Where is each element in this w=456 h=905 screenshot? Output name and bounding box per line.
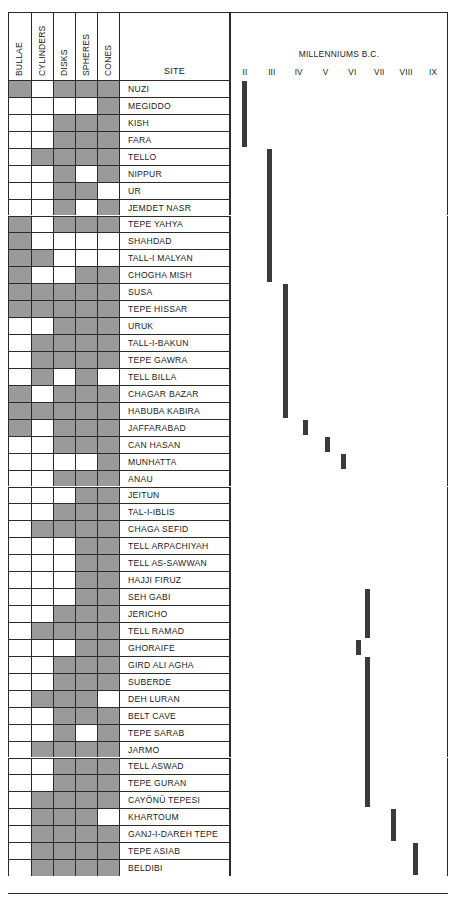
matrix-cell-cylinders[interactable]	[31, 639, 53, 656]
site-name-cell[interactable]: NIPPUR	[119, 165, 230, 182]
matrix-cell-cones[interactable]	[97, 741, 119, 758]
matrix-cell-spheres[interactable]	[75, 707, 97, 724]
site-name-cell[interactable]: SEH GABI	[119, 588, 230, 605]
matrix-cell-cones[interactable]	[97, 487, 119, 504]
matrix-cell-cones[interactable]	[97, 639, 119, 656]
site-name-cell[interactable]: ANAU	[119, 470, 230, 487]
matrix-cell-bullae[interactable]	[8, 232, 31, 249]
matrix-cell-bullae[interactable]	[8, 165, 31, 182]
matrix-cell-cylinders[interactable]	[31, 385, 53, 402]
table-row[interactable]: CHAGAR BAZAR	[8, 385, 448, 402]
matrix-cell-disks[interactable]	[53, 453, 75, 470]
table-row[interactable]: TEPE ASIAB	[8, 842, 448, 859]
site-name-cell[interactable]: GHORAIFE	[119, 639, 230, 656]
timeline-cell[interactable]	[230, 385, 448, 402]
matrix-cell-spheres[interactable]	[75, 825, 97, 842]
site-name-cell[interactable]: JAFFARABAD	[119, 419, 230, 436]
table-row[interactable]: JEMDET NASR	[8, 199, 448, 216]
site-name-cell[interactable]: CHAGAR BAZAR	[119, 385, 230, 402]
matrix-cell-disks[interactable]	[53, 791, 75, 808]
matrix-cell-cones[interactable]	[97, 842, 119, 859]
site-name-cell[interactable]: TEPE ASIAB	[119, 842, 230, 859]
table-row[interactable]: SEH GABI	[8, 588, 448, 605]
matrix-cell-cones[interactable]	[97, 385, 119, 402]
matrix-cell-cylinders[interactable]	[31, 808, 53, 825]
matrix-cell-cylinders[interactable]	[31, 216, 53, 233]
timeline-cell[interactable]	[230, 707, 448, 724]
matrix-cell-cylinders[interactable]	[31, 131, 53, 148]
table-row[interactable]: CAN HASAN	[8, 436, 448, 453]
matrix-cell-cylinders[interactable]	[31, 199, 53, 216]
timeline-cell[interactable]	[230, 724, 448, 741]
matrix-cell-cones[interactable]	[97, 80, 119, 97]
matrix-cell-spheres[interactable]	[75, 368, 97, 385]
table-row[interactable]: KISH	[8, 114, 448, 131]
matrix-cell-spheres[interactable]	[75, 656, 97, 673]
site-name-cell[interactable]: CAN HASAN	[119, 436, 230, 453]
table-row[interactable]: TEPE SARAB	[8, 724, 448, 741]
timeline-cell[interactable]	[230, 825, 448, 842]
matrix-cell-disks[interactable]	[53, 216, 75, 233]
matrix-cell-spheres[interactable]	[75, 216, 97, 233]
matrix-cell-cylinders[interactable]	[31, 80, 53, 97]
matrix-cell-bullae[interactable]	[8, 266, 31, 283]
matrix-cell-disks[interactable]	[53, 842, 75, 859]
site-name-cell[interactable]: SUSA	[119, 283, 230, 300]
matrix-cell-cones[interactable]	[97, 503, 119, 520]
timeline-cell[interactable]	[230, 808, 448, 825]
table-row[interactable]: CHAGA SEFID	[8, 520, 448, 537]
matrix-cell-cylinders[interactable]	[31, 554, 53, 571]
site-name-cell[interactable]: TELL RAMAD	[119, 622, 230, 639]
timeline-cell[interactable]	[230, 80, 448, 97]
matrix-cell-spheres[interactable]	[75, 436, 97, 453]
matrix-cell-spheres[interactable]	[75, 605, 97, 622]
matrix-cell-cones[interactable]	[97, 232, 119, 249]
matrix-cell-cones[interactable]	[97, 199, 119, 216]
site-name-cell[interactable]: TELLO	[119, 148, 230, 165]
table-row[interactable]: TELL AS-SAWWAN	[8, 554, 448, 571]
matrix-cell-spheres[interactable]	[75, 317, 97, 334]
site-name-cell[interactable]: TEPE SARAB	[119, 724, 230, 741]
site-name-cell[interactable]: TELL AS-SAWWAN	[119, 554, 230, 571]
timeline-cell[interactable]	[230, 436, 448, 453]
matrix-cell-cylinders[interactable]	[31, 690, 53, 707]
matrix-cell-cylinders[interactable]	[31, 588, 53, 605]
matrix-cell-spheres[interactable]	[75, 503, 97, 520]
site-name-cell[interactable]: TEPE GAWRA	[119, 351, 230, 368]
timeline-cell[interactable]	[230, 859, 448, 876]
site-name-cell[interactable]: FARA	[119, 131, 230, 148]
timeline-cell[interactable]	[230, 232, 448, 249]
table-row[interactable]: KHARTOUM	[8, 808, 448, 825]
table-row[interactable]: NIPPUR	[8, 165, 448, 182]
timeline-cell[interactable]	[230, 588, 448, 605]
timeline-cell[interactable]	[230, 554, 448, 571]
matrix-cell-disks[interactable]	[53, 859, 75, 876]
matrix-cell-cylinders[interactable]	[31, 842, 53, 859]
matrix-cell-cylinders[interactable]	[31, 97, 53, 114]
matrix-cell-cylinders[interactable]	[31, 453, 53, 470]
table-row[interactable]: HABUBA KABIRA	[8, 402, 448, 419]
matrix-cell-bullae[interactable]	[8, 148, 31, 165]
site-name-cell[interactable]: TAL-I-IBLIS	[119, 503, 230, 520]
matrix-cell-disks[interactable]	[53, 114, 75, 131]
matrix-cell-cones[interactable]	[97, 656, 119, 673]
matrix-cell-spheres[interactable]	[75, 724, 97, 741]
matrix-cell-cylinders[interactable]	[31, 520, 53, 537]
timeline-cell[interactable]	[230, 656, 448, 673]
matrix-cell-bullae[interactable]	[8, 249, 31, 266]
matrix-cell-cones[interactable]	[97, 368, 119, 385]
table-row[interactable]: SUSA	[8, 283, 448, 300]
timeline-cell[interactable]	[230, 131, 448, 148]
matrix-cell-disks[interactable]	[53, 588, 75, 605]
matrix-cell-disks[interactable]	[53, 520, 75, 537]
matrix-cell-disks[interactable]	[53, 622, 75, 639]
matrix-cell-bullae[interactable]	[8, 419, 31, 436]
site-name-cell[interactable]: JEITUN	[119, 487, 230, 504]
timeline-cell[interactable]	[230, 622, 448, 639]
table-row[interactable]: JEITUN	[8, 487, 448, 504]
matrix-cell-spheres[interactable]	[75, 842, 97, 859]
matrix-cell-cylinders[interactable]	[31, 165, 53, 182]
timeline-cell[interactable]	[230, 774, 448, 791]
site-name-cell[interactable]: MEGIDDO	[119, 97, 230, 114]
matrix-cell-cylinders[interactable]	[31, 758, 53, 775]
